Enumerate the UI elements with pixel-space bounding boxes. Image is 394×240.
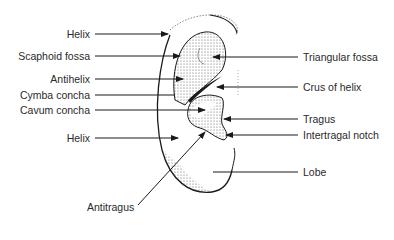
label-antitragus: Antitragus xyxy=(87,201,134,213)
label-helix-lower: Helix xyxy=(0,132,90,144)
label-antihelix: Antihelix xyxy=(0,73,90,85)
label-lobe: Lobe xyxy=(303,166,326,178)
label-cavum-concha: Cavum concha xyxy=(0,104,90,116)
label-crus-of-helix: Crus of helix xyxy=(303,81,361,93)
label-scaphoid-fossa: Scaphoid fossa xyxy=(0,50,90,62)
concha-tragus xyxy=(188,95,227,140)
label-helix-upper: Helix xyxy=(0,28,90,40)
label-triangular-fossa: Triangular fossa xyxy=(303,51,378,63)
label-intertragal-notch: Intertragal notch xyxy=(303,129,379,141)
label-tragus: Tragus xyxy=(303,113,335,125)
antihelix-body xyxy=(174,32,226,105)
label-cymba-concha: Cymba concha xyxy=(0,89,90,101)
